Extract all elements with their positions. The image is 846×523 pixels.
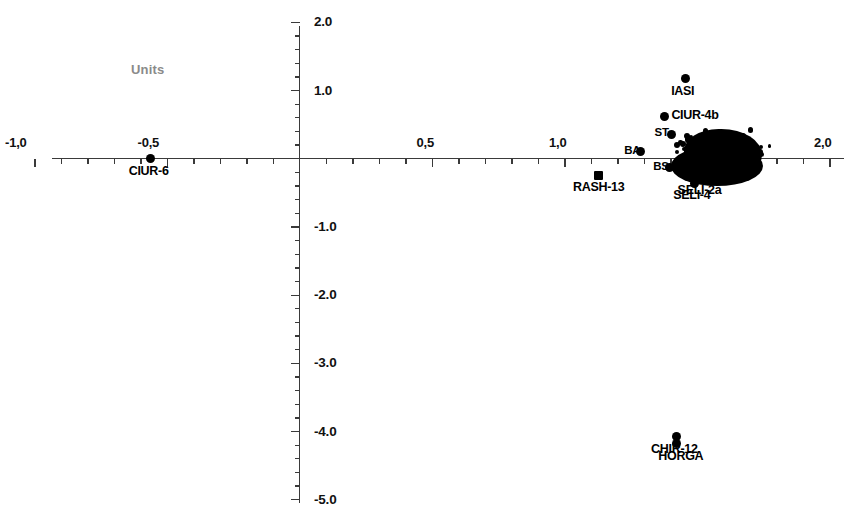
data-point-labels: CIUR-6RASH-13IASICIUR-4bBASTBSSELI-2aSEL… [0,0,846,523]
data-point-label: RASH-13 [573,180,624,194]
data-point-label: IASI [671,84,694,98]
data-point-label: BS [653,160,668,172]
data-point-label: HORGA [658,449,703,463]
data-point-label: CIUR-4b [671,108,718,122]
scatter-plot: Units -1,0-0,50,51,02,02.01.0-1.0-2.0-3.… [0,0,846,523]
data-point-label: BA [624,144,640,156]
data-point-label: SELI-4 [673,188,710,202]
data-point-label: ST [655,126,669,138]
data-point-label: CIUR-6 [129,164,169,178]
